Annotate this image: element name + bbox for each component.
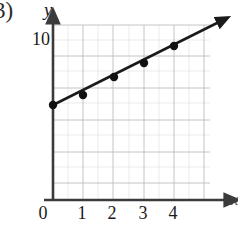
data-point-3 xyxy=(140,59,148,67)
data-point-0 xyxy=(49,101,57,109)
grid-minor-lines xyxy=(53,25,210,199)
data-point-4 xyxy=(170,42,178,50)
grid-major-lines xyxy=(53,25,210,199)
graph-figure: 3) y x 10 0 1 2 3 4 xyxy=(0,0,238,227)
trend-line xyxy=(53,22,219,105)
data-point-1 xyxy=(79,91,87,99)
data-point-2 xyxy=(110,73,118,81)
plot-area xyxy=(0,0,238,227)
